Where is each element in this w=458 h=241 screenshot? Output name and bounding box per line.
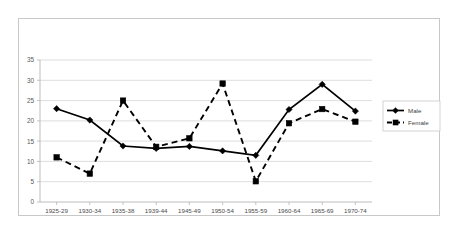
data-point-female-9 xyxy=(353,119,358,124)
data-point-female-0 xyxy=(54,155,59,160)
data-point-female-4 xyxy=(187,136,192,141)
y-axis-tick-labels: 35 30 25 20 15 10 5 0 xyxy=(27,56,35,205)
data-point-female-3 xyxy=(154,144,159,149)
data-point-female-2 xyxy=(120,98,125,103)
x-axis-label-7: 1960-64 xyxy=(278,207,301,214)
data-series-layer xyxy=(54,81,359,184)
legend-box xyxy=(383,101,440,131)
x-axis-label-6: 1955-59 xyxy=(244,207,267,214)
x-axis-label-1: 1930-34 xyxy=(78,207,101,214)
y-axis-label-10: 10 xyxy=(27,158,35,165)
legend-label-female: Female xyxy=(408,119,429,126)
y-axis-label-0: 0 xyxy=(30,198,34,205)
x-axis-category-labels: 1925-29 1930-34 1935-38 1939-44 1945-49 … xyxy=(45,207,367,214)
data-point-female-6 xyxy=(253,179,258,184)
x-axis-label-5: 1950-54 xyxy=(211,207,234,214)
y-axis-label-15: 15 xyxy=(27,138,35,145)
x-axis-label-2: 1935-38 xyxy=(112,207,135,214)
data-point-female-8 xyxy=(320,106,325,111)
data-point-male-4 xyxy=(186,143,192,149)
series-line-female xyxy=(57,84,356,182)
data-point-female-7 xyxy=(286,121,291,126)
chart-legend: Male Female xyxy=(383,101,440,131)
y-axis-label-35: 35 xyxy=(27,56,35,63)
y-axis-label-5: 5 xyxy=(30,178,34,185)
line-chart: 35 30 25 20 15 10 5 0 1925-29 1930-34 19… xyxy=(0,0,458,241)
x-axis-label-0: 1925-29 xyxy=(45,207,68,214)
data-point-male-0 xyxy=(54,106,60,112)
y-axis-label-25: 25 xyxy=(27,97,35,104)
y-axis-label-20: 20 xyxy=(27,117,35,124)
x-axis-label-3: 1939-44 xyxy=(145,207,168,214)
x-axis-label-9: 1970-74 xyxy=(344,207,367,214)
data-point-female-5 xyxy=(220,81,225,86)
data-point-female-1 xyxy=(87,171,92,176)
y-axis-label-30: 30 xyxy=(27,77,35,84)
x-axis-label-4: 1945-49 xyxy=(178,207,201,214)
data-point-male-5 xyxy=(220,148,226,154)
legend-female-square-icon xyxy=(393,120,399,126)
x-axis-label-8: 1965-69 xyxy=(311,207,334,214)
series-line-male xyxy=(57,84,356,155)
legend-label-male: Male xyxy=(408,107,422,114)
